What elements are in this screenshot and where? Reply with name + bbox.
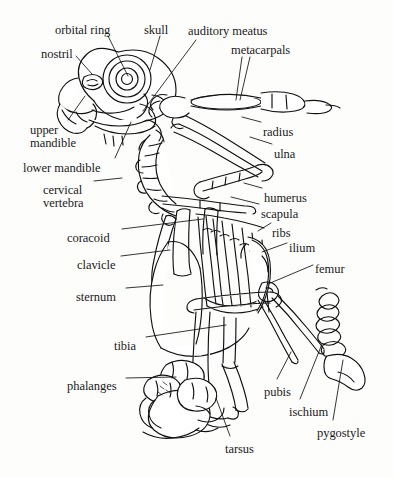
leader-femur [268,265,313,284]
wing-humerus [194,164,273,198]
label-humerus: humerus [264,192,307,206]
label-ulna: ulna [274,148,295,162]
leader-lower-mandible [115,122,131,158]
label-lower-mandible: lower mandible [23,162,100,176]
wing-metacarpals [149,92,340,118]
label-pygostyle: pygostyle [317,427,365,441]
label-ischium: ischium [289,406,328,420]
leader-pubis [277,352,291,379]
skeleton-illustration [0,0,393,477]
label-clavicle: clavicle [77,259,115,273]
label-ilium: ilium [289,242,315,256]
label-tarsus: tarsus [225,443,254,457]
label-cervical-line2: vertebra [43,197,84,211]
leader-radius [242,117,261,122]
label-phalanges: phalanges [67,380,117,394]
leader-scapula [231,197,259,204]
label-skull: skull [144,24,168,38]
bird-skeleton-figure: orbital ring skull auditory meatus nostr… [0,0,393,477]
label-pubis: pubis [264,386,291,400]
label-tibia: tibia [114,340,136,354]
foot-phalanges [140,360,224,438]
label-coracoid: coracoid [67,232,110,246]
label-auditory-meatus: auditory meatus [188,25,267,39]
label-orbital-ring: orbital ring [55,24,110,38]
pelvis-pubis-ischium [258,296,324,364]
label-femur: femur [315,263,345,277]
label-metacarpals: metacarpals [231,44,290,58]
leader-ischium [300,344,322,399]
label-sternum: sternum [76,291,116,305]
label-upper-mandible-line2: mandible [30,137,76,151]
leader-ilium [262,243,287,252]
leader-cervical [94,178,122,181]
pectoral-scapula [162,196,256,214]
beak-upper-mandible [57,104,96,133]
cervical-vertebrae [136,135,176,225]
leader-humerus [244,183,262,188]
label-radius: radius [263,126,293,140]
label-ribs: ribs [272,227,291,241]
label-scapula: scapula [261,208,298,222]
label-nostril: nostril [41,48,73,62]
